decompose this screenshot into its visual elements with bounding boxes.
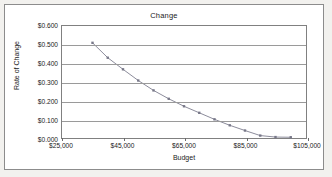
x-axis-tick-mark <box>247 138 248 141</box>
chart-title: Change <box>5 11 323 20</box>
data-point-marker <box>168 98 170 100</box>
data-point-marker <box>152 89 154 91</box>
y-axis-tick-label: $0.500 <box>38 41 58 48</box>
screenshot-canvas: Change Rate of Change $0.000$0.100$0.200… <box>0 0 332 177</box>
x-axis-tick-labels: $25,000$45,000$65,000$85,000$105,000 <box>61 142 307 154</box>
y-axis-tick-labels: $0.000$0.100$0.200$0.300$0.400$0.500$0.6… <box>15 25 58 139</box>
data-point-marker <box>259 134 261 136</box>
x-axis-tick-label: $45,000 <box>111 142 135 149</box>
x-axis-tick-label: $25,000 <box>49 142 73 149</box>
gridline-horizontal <box>62 64 306 65</box>
data-point-marker <box>137 79 139 81</box>
x-axis-tick-mark <box>308 138 309 141</box>
x-axis-tick-label: $85,000 <box>234 142 258 149</box>
gridline-horizontal <box>62 121 306 122</box>
y-axis-tick-label: $0.100 <box>38 117 58 124</box>
y-axis-tick-label: $0.400 <box>38 60 58 67</box>
data-point-marker <box>198 112 200 114</box>
x-axis-title: Budget <box>61 154 307 161</box>
gridline-horizontal <box>62 83 306 84</box>
series-line <box>93 43 291 137</box>
plot-area <box>61 25 307 139</box>
y-axis-tick-label: $0.200 <box>38 98 58 105</box>
data-point-marker <box>107 57 109 59</box>
y-axis-tick-label: $0.300 <box>38 79 58 86</box>
data-point-marker <box>183 105 185 107</box>
x-axis-tick-mark <box>185 138 186 141</box>
chart-window: Change Rate of Change $0.000$0.100$0.200… <box>4 4 324 170</box>
x-axis-tick-label: $65,000 <box>172 142 196 149</box>
gridline-horizontal <box>62 102 306 103</box>
x-axis-tick-mark <box>62 138 63 141</box>
data-point-marker <box>229 124 231 126</box>
x-axis-tick-mark <box>124 138 125 141</box>
data-point-marker <box>244 129 246 131</box>
data-point-marker <box>91 42 93 44</box>
data-point-marker <box>122 68 124 70</box>
y-axis-tick-label: $0.600 <box>38 22 58 29</box>
data-point-marker <box>274 136 276 138</box>
x-axis-tick-label: $105,000 <box>293 142 321 149</box>
data-point-marker <box>290 136 292 138</box>
gridline-horizontal <box>62 45 306 46</box>
